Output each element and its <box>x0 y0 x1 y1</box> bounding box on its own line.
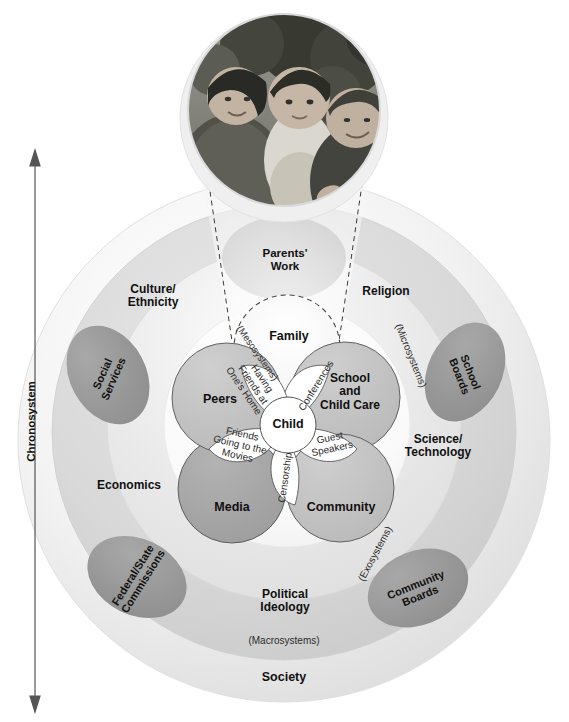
ecological-systems-diagram: Chronosystem Society (Macrosystems) (Exo… <box>0 0 569 722</box>
diagram-canvas <box>0 0 569 722</box>
child-circle <box>260 397 316 453</box>
